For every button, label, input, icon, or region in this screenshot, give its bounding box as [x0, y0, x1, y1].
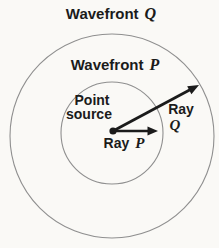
ray-q-label-word: Ray [168, 101, 194, 117]
wavefront-q-label: Wavefront Q [66, 5, 157, 22]
ray-q-label-letter: Q [170, 117, 181, 133]
wavefront-diagram: Wavefront Q Wavefront P Point source Ray… [0, 0, 219, 248]
ray-p-label: Ray P [104, 134, 146, 151]
wavefront-p-label: Wavefront P [71, 56, 160, 73]
diagram-canvas: Wavefront Q Wavefront P Point source Ray… [0, 0, 219, 248]
point-source-dot [109, 127, 116, 134]
point-source-label-line2: source [66, 106, 112, 122]
ray-p-arrowhead [148, 127, 159, 136]
